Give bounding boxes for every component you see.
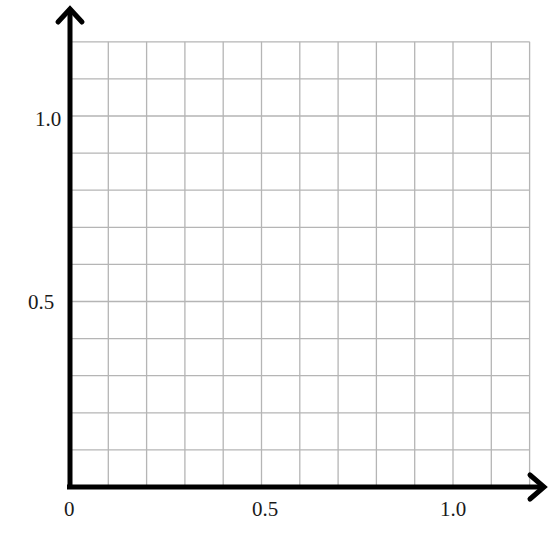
chart-canvas xyxy=(0,0,555,533)
y-tick-label-0.5: 0.5 xyxy=(28,292,54,313)
x-tick-label-0.5: 0.5 xyxy=(252,499,278,520)
axes xyxy=(58,9,544,499)
coordinate-grid-chart: 0 0.5 1.0 0.5 1.0 xyxy=(0,0,555,533)
y-tick-label-1.0: 1.0 xyxy=(35,109,61,130)
grid-lines xyxy=(70,42,530,487)
x-tick-label-1.0: 1.0 xyxy=(440,499,466,520)
x-tick-label-0: 0 xyxy=(64,499,75,520)
